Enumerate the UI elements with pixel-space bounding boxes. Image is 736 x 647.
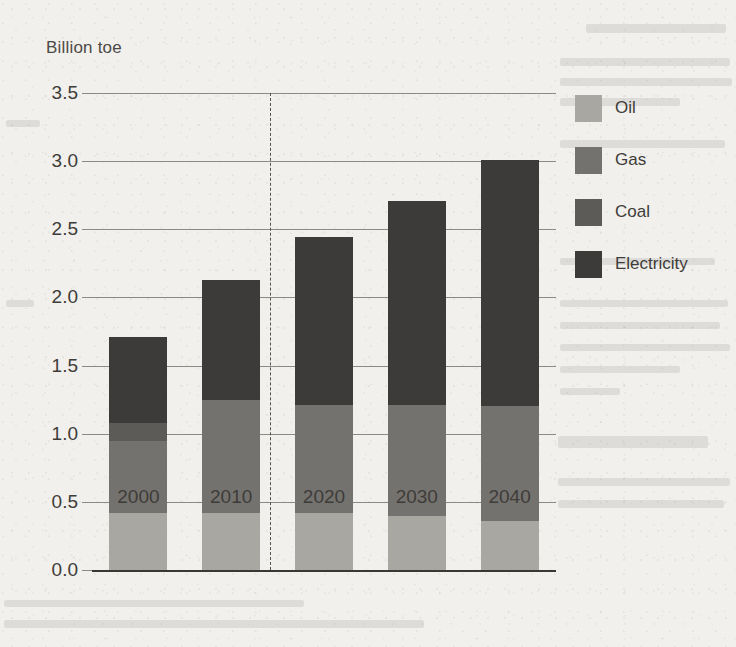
bar-segment-coal-2000 xyxy=(109,423,167,441)
legend-label: Coal xyxy=(615,202,650,222)
y-axis-tick-label: 1.5 xyxy=(52,355,78,377)
y-axis-tick-label: 3.5 xyxy=(52,82,78,104)
legend-label: Oil xyxy=(615,98,636,118)
y-axis-tick-mark xyxy=(82,570,92,571)
y-axis-tick-label: 2.0 xyxy=(52,286,78,308)
bar-segment-electricity-2010 xyxy=(202,280,260,400)
bar-2020 xyxy=(295,237,353,570)
bar-2030 xyxy=(388,201,446,570)
bar-segment-oil-2010 xyxy=(202,513,260,570)
bar-2040 xyxy=(481,160,539,570)
y-axis-tick-label: 0.5 xyxy=(52,491,78,513)
y-axis-tick-mark xyxy=(82,434,92,435)
x-axis-baseline: 0.0 xyxy=(92,570,556,572)
bar-segment-electricity-2020 xyxy=(295,237,353,405)
y-axis-tick-mark xyxy=(82,93,92,94)
y-axis-tick-mark xyxy=(82,161,92,162)
y-axis-title: Billion toe xyxy=(46,38,122,58)
y-axis-tick-label: 3.0 xyxy=(52,150,78,172)
gridline: 3.5 xyxy=(92,93,556,94)
legend-swatch-oil-icon xyxy=(575,95,602,122)
y-axis-tick-label: 0.0 xyxy=(52,559,78,581)
x-axis-tick-label: 2030 xyxy=(396,486,438,508)
y-axis-tick-mark xyxy=(82,502,92,503)
y-axis-tick-label: 2.5 xyxy=(52,218,78,240)
scanned-page: Billion toe 0.00.51.01.52.02.53.03.5 200… xyxy=(0,0,736,647)
y-axis-tick-mark xyxy=(82,229,92,230)
legend-swatch-gas-icon xyxy=(575,147,602,174)
bar-segment-electricity-2040 xyxy=(481,160,539,407)
legend-item-gas[interactable]: Gas xyxy=(575,134,725,186)
bar-segment-oil-2030 xyxy=(388,516,446,571)
x-axis-tick-label: 2010 xyxy=(210,486,252,508)
bar-2000 xyxy=(109,337,167,570)
bar-segment-oil-2000 xyxy=(109,513,167,570)
bar-segment-electricity-2000 xyxy=(109,337,167,423)
legend-swatch-electricity-icon xyxy=(575,251,602,278)
bar-segment-oil-2020 xyxy=(295,513,353,570)
bar-2010 xyxy=(202,280,260,570)
y-axis-tick-mark xyxy=(82,366,92,367)
bar-segment-oil-2040 xyxy=(481,521,539,570)
legend-item-coal[interactable]: Coal xyxy=(575,186,725,238)
forecast-divider-line xyxy=(270,93,271,570)
legend-swatch-coal-icon xyxy=(575,199,602,226)
stacked-bar-chart: Billion toe 0.00.51.01.52.02.53.03.5 200… xyxy=(0,0,736,647)
x-axis-tick-label: 2000 xyxy=(117,486,159,508)
legend-label: Gas xyxy=(615,150,646,170)
y-axis-tick-label: 1.0 xyxy=(52,423,78,445)
y-axis-tick-mark xyxy=(82,297,92,298)
legend-item-electricity[interactable]: Electricity xyxy=(575,238,725,290)
x-axis-tick-label: 2020 xyxy=(303,486,345,508)
legend-label: Electricity xyxy=(615,254,688,274)
legend-item-oil[interactable]: Oil xyxy=(575,82,725,134)
x-axis-tick-label: 2040 xyxy=(488,486,530,508)
bar-segment-electricity-2030 xyxy=(388,201,446,405)
chart-legend: OilGasCoalElectricity xyxy=(575,82,725,290)
